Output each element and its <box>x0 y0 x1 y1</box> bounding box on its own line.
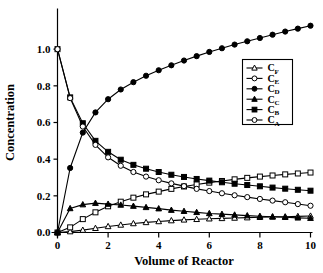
data-point-open-circle <box>219 191 224 196</box>
data-point-open-circle <box>169 181 174 186</box>
data-point-open-circle <box>295 201 300 206</box>
data-point-filled-square <box>232 181 237 186</box>
data-point-open-circle <box>68 96 73 101</box>
data-point-open-circle <box>181 184 186 189</box>
data-point-open-square <box>245 175 250 180</box>
data-point-filled-circle <box>252 86 257 91</box>
y-tick-label: 1.0 <box>37 43 51 55</box>
data-point-open-circle <box>270 198 275 203</box>
data-point-open-square <box>131 195 136 200</box>
data-point-filled-circle <box>295 26 300 31</box>
data-point-filled-square <box>131 162 136 167</box>
data-point-filled-circle <box>156 68 161 73</box>
data-point-filled-square <box>194 176 199 181</box>
data-point-filled-square <box>182 174 187 179</box>
data-point-open-square <box>283 172 288 177</box>
data-point-open-circle <box>118 163 123 168</box>
data-point-open-circle <box>257 196 262 201</box>
data-point-filled-circle <box>219 46 224 51</box>
data-point-filled-square <box>257 184 262 189</box>
data-point-filled-circle <box>270 32 275 37</box>
data-point-filled-square <box>207 178 212 183</box>
legend-subscript-C: C <box>275 99 280 107</box>
data-point-filled-circle <box>245 39 250 44</box>
data-point-open-circle <box>283 200 288 205</box>
data-point-open-square <box>68 225 73 230</box>
x-tick-label: 6 <box>207 239 213 251</box>
data-point-filled-square <box>118 157 123 162</box>
data-point-filled-square <box>169 172 174 177</box>
legend-subscript-B: B <box>275 109 280 117</box>
data-point-filled-square <box>144 166 149 171</box>
x-tick-label: 2 <box>105 239 111 251</box>
data-point-filled-square <box>245 183 250 188</box>
data-point-open-square <box>80 217 85 222</box>
y-tick-label: 0.8 <box>37 80 51 92</box>
y-tick-label: 0.2 <box>37 190 51 202</box>
data-point-filled-square <box>283 186 288 191</box>
x-tick-label: 4 <box>156 239 162 251</box>
data-point-filled-square <box>252 107 257 112</box>
data-point-open-square <box>257 174 262 179</box>
data-point-filled-square <box>270 185 275 190</box>
data-point-open-circle <box>143 174 148 179</box>
chart-figure: 0.00.20.40.60.81.00246810Volume of React… <box>0 0 323 273</box>
data-point-filled-square <box>156 170 161 175</box>
data-point-filled-circle <box>143 73 148 78</box>
data-point-open-circle <box>252 76 257 81</box>
data-point-filled-circle <box>68 165 73 170</box>
series-C_F <box>55 213 314 235</box>
data-point-open-circle <box>207 188 212 193</box>
data-point-filled-circle <box>232 42 237 47</box>
y-axis-title: Concentration <box>3 84 17 161</box>
legend-subscript-F: F <box>275 68 279 76</box>
data-point-filled-circle <box>257 35 262 40</box>
data-point-open-circle <box>55 47 60 52</box>
data-point-filled-circle <box>181 58 186 63</box>
legend-subscript-E: E <box>275 78 280 86</box>
data-point-open-square <box>270 173 275 178</box>
data-point-open-circle <box>156 178 161 183</box>
legend-subscript-D: D <box>275 88 280 96</box>
data-point-filled-circle <box>93 110 98 115</box>
x-tick-label: 8 <box>257 239 263 251</box>
concentration-vs-volume-chart: 0.00.20.40.60.81.00246810Volume of React… <box>0 0 323 273</box>
data-point-open-circle <box>80 124 85 129</box>
data-point-open-square <box>144 192 149 197</box>
data-point-open-square <box>169 186 174 191</box>
data-point-filled-circle <box>131 80 136 85</box>
y-tick-label: 0.4 <box>37 153 51 165</box>
data-point-filled-square <box>295 187 300 192</box>
x-tick-label: 0 <box>55 239 61 251</box>
data-point-filled-circle <box>308 23 313 28</box>
data-point-filled-square <box>106 149 111 154</box>
legend-subscript-A: A <box>275 120 280 128</box>
data-point-open-circle <box>106 155 111 160</box>
data-point-filled-square <box>308 188 313 193</box>
data-point-open-circle <box>93 142 98 147</box>
data-point-open-square <box>156 189 161 194</box>
y-tick-label: 0.6 <box>37 116 51 128</box>
data-point-open-square <box>93 210 98 215</box>
data-point-filled-circle <box>80 130 85 135</box>
data-point-open-circle <box>245 195 250 200</box>
data-point-filled-circle <box>207 49 212 54</box>
data-point-filled-circle <box>106 97 111 102</box>
data-point-filled-triangle <box>93 200 99 205</box>
data-point-open-circle <box>232 193 237 198</box>
data-point-filled-square <box>219 180 224 185</box>
data-point-open-circle <box>308 203 313 208</box>
data-point-open-circle <box>252 118 257 123</box>
chart-legend: CFCECDCCCBCA <box>243 60 293 128</box>
data-point-open-square <box>295 171 300 176</box>
data-point-open-circle <box>131 169 136 174</box>
x-axis-title: Volume of Reactor <box>134 254 234 268</box>
data-point-filled-circle <box>194 54 199 59</box>
data-point-filled-circle <box>169 63 174 68</box>
data-point-open-square <box>308 170 313 175</box>
data-point-filled-circle <box>283 29 288 34</box>
data-point-filled-circle <box>118 87 123 92</box>
data-point-open-circle <box>194 186 199 191</box>
x-tick-label: 10 <box>305 239 317 251</box>
y-tick-label: 0.0 <box>37 226 51 238</box>
